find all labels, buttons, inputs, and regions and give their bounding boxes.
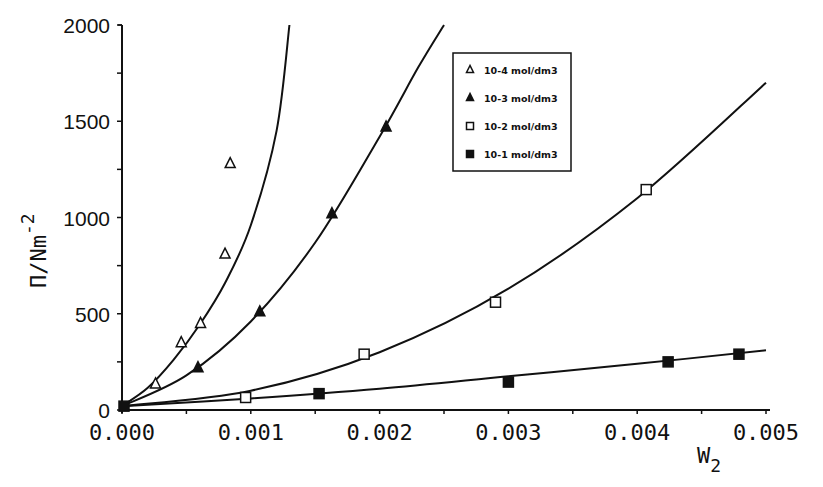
open-triangle-marker	[225, 158, 235, 168]
filled-square-marker	[119, 401, 129, 411]
y-tick-label: 2000	[63, 14, 110, 37]
open-square-marker	[359, 349, 369, 359]
x-tick-label: 0.004	[604, 420, 670, 445]
legend-label: 10-1 mol/dm3	[484, 149, 558, 160]
open-square-marker	[641, 185, 651, 195]
y-axis-title: Π/Nm-2	[17, 213, 51, 288]
data-markers	[119, 121, 744, 411]
open-square-marker	[491, 297, 501, 307]
x-tick-label: 0.000	[89, 420, 155, 445]
fitted-curves	[122, 25, 766, 406]
fit-curve-0	[122, 25, 289, 406]
filled-triangle-marker	[381, 121, 391, 131]
legend-label: 10-2 mol/dm3	[484, 121, 558, 132]
x-tick-label: 0.005	[733, 420, 799, 445]
legend: 10-4 mol/dm310-3 mol/dm310-2 mol/dm310-1…	[453, 53, 571, 171]
filled-square-marker	[503, 377, 513, 387]
x-tick-label: 0.002	[346, 420, 412, 445]
open-triangle-marker	[176, 337, 186, 347]
filled-square-marker	[663, 357, 673, 367]
filled-square-marker	[467, 151, 474, 158]
legend-label: 10-3 mol/dm3	[484, 93, 558, 104]
y-tick-label: 500	[75, 303, 110, 326]
y-tick-label: 1000	[63, 207, 110, 230]
open-triangle-marker	[220, 248, 230, 258]
filled-square-marker	[734, 349, 744, 359]
open-square-marker	[467, 123, 474, 130]
chart-canvas: 0.0000.0010.0020.0030.0040.0050500100015…	[0, 0, 823, 487]
filled-triangle-marker	[193, 362, 203, 372]
filled-square-marker	[314, 389, 324, 399]
y-tick-label: 0	[98, 399, 110, 422]
open-square-marker	[241, 392, 251, 402]
x-tick-label: 0.001	[218, 420, 284, 445]
legend-label: 10-4 mol/dm3	[484, 65, 558, 76]
axes: 0.0000.0010.0020.0030.0040.0050500100015…	[63, 14, 799, 445]
x-tick-label: 0.003	[475, 420, 541, 445]
y-tick-label: 1500	[63, 110, 110, 133]
x-axis-title: W2	[697, 443, 721, 476]
